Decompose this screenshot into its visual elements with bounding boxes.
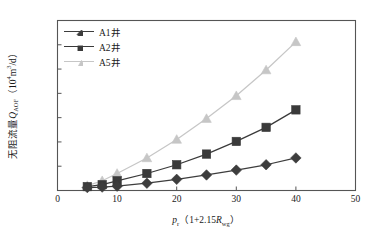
legend-item-label: A2井 — [99, 40, 121, 54]
square-marker — [262, 123, 270, 131]
diamond-marker — [231, 165, 242, 176]
square-marker — [232, 137, 240, 145]
triangle-marker — [77, 60, 83, 66]
square-marker — [292, 106, 300, 114]
diamond-marker — [171, 174, 182, 185]
legend-item[interactable]: A2井 — [64, 39, 121, 54]
triangle-marker — [291, 37, 301, 46]
triangle-marker — [142, 153, 152, 162]
square-marker — [173, 161, 181, 169]
legend-item[interactable]: A1井 — [64, 24, 121, 39]
chart-container: 无阻流量QAOF（104m3/d） 0500100015002000250030… — [0, 0, 369, 235]
legend-key — [64, 40, 94, 53]
diamond-marker — [77, 30, 83, 36]
legend-item[interactable]: A5井 — [64, 54, 121, 69]
series-A2井 — [83, 106, 300, 191]
square-marker — [75, 43, 83, 51]
diamond-marker — [291, 153, 302, 164]
diamond-marker — [261, 160, 272, 171]
triangle-marker — [172, 135, 182, 144]
plot-area — [0, 0, 369, 235]
diamond-marker — [75, 28, 83, 36]
square-marker — [143, 169, 151, 177]
square-marker — [202, 150, 210, 158]
legend-key — [64, 25, 94, 38]
chart-legend: A1井A2井A5井 — [64, 24, 121, 69]
triangle-marker — [75, 58, 83, 66]
legend-item-label: A5井 — [99, 55, 121, 69]
legend-key — [64, 55, 94, 68]
legend-item-label: A1井 — [99, 25, 121, 39]
triangle-marker — [112, 169, 122, 178]
triangle-marker — [202, 114, 212, 123]
diamond-marker — [201, 170, 212, 181]
square-marker — [78, 45, 83, 50]
diamond-marker — [142, 178, 153, 189]
